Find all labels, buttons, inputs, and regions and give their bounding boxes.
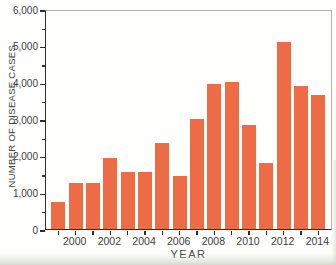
- x-axis-tick: [162, 231, 163, 235]
- y-tick-label: 0: [0, 225, 38, 236]
- y-tick-label: 3,000: [0, 115, 38, 126]
- x-axis-tick: [75, 231, 76, 235]
- y-tick-label: 4,000: [0, 78, 38, 89]
- y-tick-label: 5,000: [0, 41, 38, 52]
- x-axis-tick: [283, 231, 284, 235]
- y-axis-minor-tick: [42, 102, 45, 103]
- x-axis-tick: [179, 231, 180, 235]
- bar-2002: [103, 158, 117, 230]
- x-axis-tick: [266, 231, 267, 235]
- bar-2000: [69, 183, 83, 229]
- x-axis-tick: [92, 231, 93, 235]
- bar-2006: [173, 176, 187, 229]
- x-axis-tick: [231, 231, 232, 235]
- y-tick-label: 1,000: [0, 188, 38, 199]
- x-tick-label: 2008: [196, 235, 230, 247]
- bar-2009: [225, 82, 239, 229]
- bar-2014: [311, 95, 325, 229]
- x-tick-label: 2004: [127, 235, 161, 247]
- y-axis-tick: [40, 194, 45, 195]
- x-tick-label: 2010: [231, 235, 265, 247]
- bar-2005: [155, 143, 169, 229]
- x-axis-tick: [110, 231, 111, 235]
- bar-2001: [86, 183, 100, 229]
- bar-2010: [242, 125, 256, 230]
- y-axis-minor-tick: [42, 139, 45, 140]
- y-axis-minor-tick: [42, 29, 45, 30]
- bar-chart-figure: NUMBER OF DISEASE CASES 01,0002,0003,000…: [0, 0, 336, 265]
- y-axis-minor-tick: [42, 212, 45, 213]
- y-axis-minor-tick: [42, 65, 45, 66]
- x-axis-title: YEAR: [45, 248, 332, 260]
- x-tick-label: 2000: [58, 235, 92, 247]
- x-axis-tick: [58, 231, 59, 235]
- y-axis-tick: [40, 157, 45, 158]
- bar-2003: [121, 172, 135, 229]
- y-axis-tick: [40, 84, 45, 85]
- y-tick-label: 6,000: [0, 5, 38, 16]
- bar-2012: [277, 42, 291, 229]
- x-axis-tick: [318, 231, 319, 235]
- bar-2007: [190, 119, 204, 229]
- y-axis-tick: [40, 47, 45, 48]
- bar-2013: [294, 86, 308, 229]
- x-tick-label: 2006: [162, 235, 196, 247]
- y-axis-tick: [40, 10, 45, 11]
- x-axis-tick: [248, 231, 249, 235]
- bar-2011: [259, 163, 273, 229]
- x-axis-tick: [127, 231, 128, 235]
- bar-1999: [51, 202, 65, 230]
- y-axis-minor-tick: [42, 175, 45, 176]
- bar-2004: [138, 172, 152, 229]
- plot-area: [45, 10, 332, 230]
- y-axis-tick: [40, 230, 45, 231]
- x-axis-tick: [214, 231, 215, 235]
- x-axis-tick: [144, 231, 145, 235]
- x-axis-tick: [196, 231, 197, 235]
- bar-2008: [207, 84, 221, 229]
- x-tick-label: 2014: [300, 235, 334, 247]
- x-axis-tick: [300, 231, 301, 235]
- y-tick-label: 2,000: [0, 151, 38, 162]
- x-tick-label: 2012: [266, 235, 300, 247]
- y-axis-tick: [40, 120, 45, 121]
- x-tick-label: 2002: [92, 235, 126, 247]
